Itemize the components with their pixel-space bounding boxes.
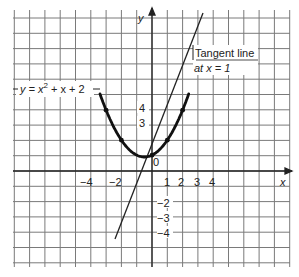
curve-point <box>104 108 109 113</box>
y-tick-label: −4 <box>157 227 170 239</box>
y-tick-label: 4 <box>139 102 145 114</box>
x-axis-label: x <box>279 176 286 188</box>
curve-point <box>165 138 170 143</box>
x-tick-label: 4 <box>209 176 215 188</box>
tangent-label-line2: at x = 1 <box>194 62 230 74</box>
x-axis-arrow-icon <box>285 168 292 174</box>
y-tick-label: −2 <box>157 197 170 209</box>
parabola-tangent-chart: y x 0 −4 −2 1 2 3 4 4 3 −2 −3 −4 y = x2 … <box>0 0 299 277</box>
curve-point <box>119 138 124 143</box>
x-tick-label: −2 <box>109 176 122 188</box>
y-tick-label: 3 <box>139 117 145 129</box>
y-tick-label: −3 <box>157 212 170 224</box>
y-axis-arrow-icon <box>149 8 155 15</box>
curve-point <box>180 108 185 113</box>
x-tick-label: −4 <box>80 176 93 188</box>
parabola-equation-label: y = x2 + x + 2 <box>19 81 85 95</box>
x-tick-label: 3 <box>194 176 200 188</box>
tangent-label-line1: Tangent line <box>195 47 254 59</box>
x-tick-label: 1 <box>164 176 170 188</box>
origin-label: 0 <box>153 156 159 168</box>
x-tick-label: 2 <box>178 176 184 188</box>
